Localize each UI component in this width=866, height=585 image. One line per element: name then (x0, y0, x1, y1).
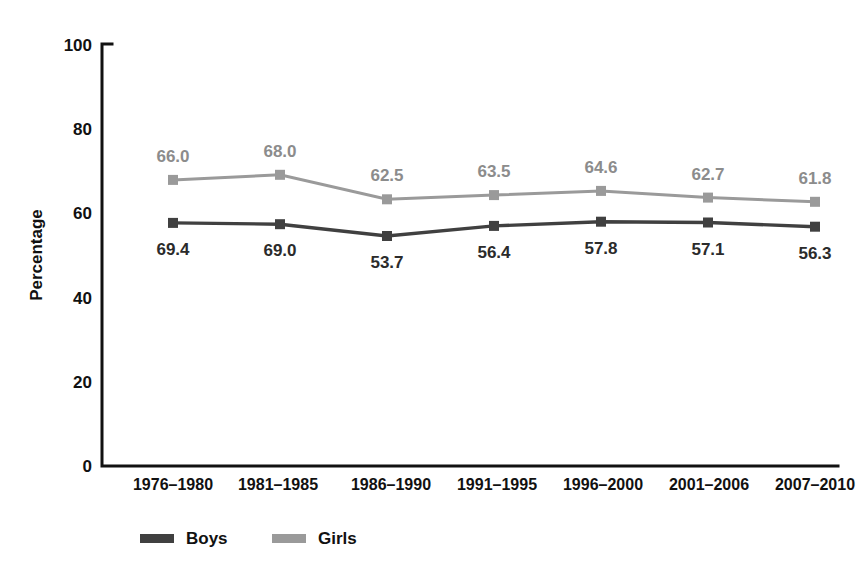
data-label: 62.7 (691, 165, 724, 184)
x-tick-label: 1991–1995 (457, 476, 537, 493)
x-tick-label: 1981–1985 (238, 476, 318, 493)
y-axis-title: Percentage (27, 209, 46, 301)
legend-swatch-boys (140, 534, 174, 543)
data-label: 57.1 (691, 240, 724, 259)
data-point-marker (810, 222, 820, 232)
data-label: 61.8 (798, 169, 831, 188)
axis-frame (102, 44, 838, 466)
data-label-layer: 66.068.062.563.564.662.761.869.469.053.7… (156, 142, 831, 272)
y-tick-label: 80 (73, 120, 92, 139)
x-axis-ticks: 1976–1980 1981–1985 1986–1990 1991–1995 … (133, 476, 855, 493)
data-label: 69.4 (156, 240, 190, 259)
x-tick-label: 2001–2006 (669, 476, 749, 493)
x-tick-label: 2007–2010 (775, 476, 855, 493)
data-point-marker (489, 190, 499, 200)
data-label: 56.3 (798, 244, 831, 263)
chart-canvas: 100 80 60 40 20 0 Percentage 1976–1980 1… (0, 0, 866, 585)
data-label: 56.4 (477, 243, 511, 262)
data-point-marker (703, 193, 713, 203)
legend-label-girls: Girls (318, 529, 357, 548)
data-label: 53.7 (370, 253, 403, 272)
data-label: 63.5 (477, 162, 510, 181)
y-tick-label: 100 (64, 36, 92, 55)
data-label: 62.5 (370, 166, 403, 185)
data-label: 66.0 (156, 147, 189, 166)
series-boys (168, 217, 820, 241)
y-axis-ticks: 100 80 60 40 20 0 (64, 36, 92, 476)
legend-label-boys: Boys (186, 529, 228, 548)
data-label: 64.6 (584, 158, 617, 177)
data-label: 57.8 (584, 239, 617, 258)
y-tick-label: 40 (73, 289, 92, 308)
data-point-marker (275, 170, 285, 180)
data-point-marker (382, 194, 392, 204)
y-tick-label: 20 (73, 373, 92, 392)
x-tick-label: 1996–2000 (563, 476, 643, 493)
data-point-marker (703, 218, 713, 228)
x-tick-label: 1976–1980 (133, 476, 213, 493)
data-point-marker (168, 218, 178, 228)
data-point-marker (596, 186, 606, 196)
y-tick-label: 0 (83, 457, 92, 476)
x-tick-label: 1986–1990 (351, 476, 431, 493)
legend-swatch-girls (272, 534, 306, 543)
data-point-marker (275, 219, 285, 229)
data-label: 68.0 (263, 142, 296, 161)
data-label: 69.0 (263, 241, 296, 260)
data-point-marker (168, 175, 178, 185)
line-chart: 100 80 60 40 20 0 Percentage 1976–1980 1… (0, 0, 866, 585)
data-point-marker (596, 217, 606, 227)
legend: Boys Girls (140, 529, 357, 548)
data-point-marker (382, 231, 392, 241)
data-point-marker (489, 221, 499, 231)
data-point-marker (810, 197, 820, 207)
y-tick-label: 60 (73, 204, 92, 223)
